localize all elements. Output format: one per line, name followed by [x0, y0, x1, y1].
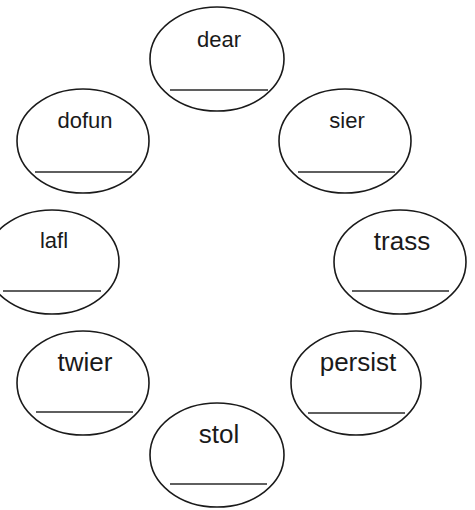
- word-oval-stol: stol: [150, 403, 284, 507]
- word-ovals-group: deardofunsierlafltrasstwierpersiststol: [0, 7, 466, 507]
- worksheet-canvas: deardofunsierlafltrasstwierpersiststol: [0, 0, 475, 510]
- word-oval-twier: twier: [17, 331, 149, 435]
- word-label: sier: [329, 108, 364, 133]
- word-oval-dear: dear: [150, 7, 284, 111]
- word-label: lafl: [40, 228, 68, 253]
- word-oval-trass: trass: [334, 210, 466, 314]
- word-label: trass: [374, 226, 430, 256]
- word-label: dear: [197, 27, 241, 52]
- word-label: persist: [320, 347, 397, 377]
- oval-outline: [0, 210, 119, 314]
- oval-outline: [150, 7, 284, 111]
- word-oval-persist: persist: [291, 331, 421, 435]
- oval-outline: [17, 89, 149, 193]
- word-label: dofun: [57, 108, 112, 133]
- word-oval-lafl: lafl: [0, 210, 119, 314]
- oval-outline: [279, 89, 411, 193]
- word-label: twier: [58, 347, 113, 377]
- word-oval-sier: sier: [279, 89, 411, 193]
- word-label: stol: [199, 419, 239, 449]
- word-oval-dofun: dofun: [17, 89, 149, 193]
